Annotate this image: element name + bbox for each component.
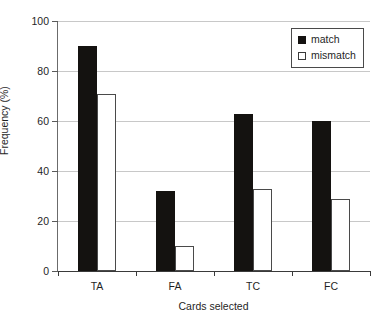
legend-swatch-mismatch	[298, 52, 306, 60]
chart-legend: match mismatch	[291, 28, 364, 68]
bar-chart: Frequency (%) 020406080100TAFATCFC Cards…	[0, 0, 386, 321]
y-axis-tick	[52, 71, 58, 72]
x-axis-label-tc: TC	[246, 280, 260, 292]
x-axis-label-ta: TA	[91, 280, 104, 292]
bar-tc-mismatch	[253, 189, 272, 272]
y-axis-title: Frequency (%)	[0, 86, 10, 155]
bar-fa-match	[156, 191, 175, 271]
bar-fc-mismatch	[331, 199, 350, 272]
y-axis-label: 80	[37, 66, 49, 77]
x-axis-tick	[58, 271, 59, 276]
y-axis-label: 60	[37, 116, 49, 127]
bar-ta-match	[78, 46, 97, 271]
x-axis-tick	[136, 271, 137, 276]
y-axis-label: 20	[37, 216, 49, 227]
bar-fa-mismatch	[175, 246, 194, 271]
bar-fc-match	[312, 121, 331, 271]
y-axis-tick	[52, 121, 58, 122]
y-axis-tick	[52, 221, 58, 222]
x-axis-title: Cards selected	[57, 300, 370, 312]
gridline	[58, 71, 370, 72]
legend-item-match: match	[298, 33, 356, 46]
y-axis-label: 0	[43, 266, 49, 277]
legend-item-mismatch: mismatch	[298, 49, 356, 62]
legend-label-mismatch: mismatch	[311, 50, 356, 61]
y-axis-tick	[52, 171, 58, 172]
bar-ta-mismatch	[97, 94, 116, 272]
legend-label-match: match	[311, 34, 340, 45]
legend-swatch-match	[298, 36, 306, 44]
x-axis-label-fc: FC	[324, 280, 338, 292]
gridline	[58, 21, 370, 22]
y-axis-label: 40	[37, 166, 49, 177]
bar-tc-match	[234, 114, 253, 272]
x-axis-tick	[370, 271, 371, 276]
x-axis-tick	[214, 271, 215, 276]
x-axis-tick	[292, 271, 293, 276]
x-axis-label-fa: FA	[169, 280, 182, 292]
y-axis-label: 100	[31, 16, 49, 27]
y-axis-tick	[52, 21, 58, 22]
